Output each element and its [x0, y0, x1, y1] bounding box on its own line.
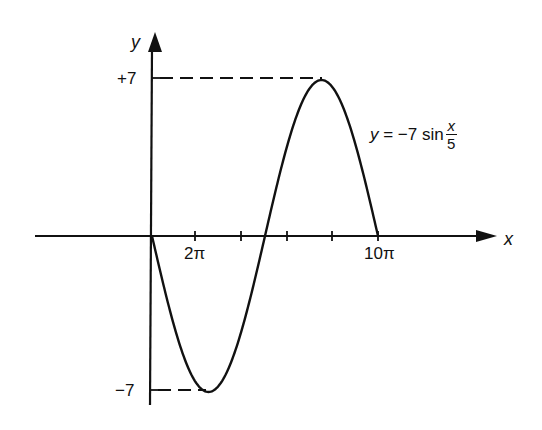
fraction-denominator: 5 [447, 136, 455, 151]
equation-fraction: x 5 [446, 118, 457, 151]
x-axis-label: x [504, 230, 513, 248]
plot-area [0, 0, 542, 430]
equation-rhs: = −7 sin [379, 126, 444, 143]
y-axis-label: y [131, 33, 140, 51]
y-tick-label-pos7: +7 [117, 70, 136, 87]
y-tick-label-neg7: −7 [115, 382, 134, 399]
fraction-numerator: x [447, 118, 455, 133]
chart: y x +7 −7 2π 10π y = −7 sin x 5 [0, 0, 542, 430]
y-axis-arrow-icon [148, 32, 162, 52]
y-axis [150, 48, 152, 405]
equation-lhs: y [370, 126, 379, 143]
x-tick-label-2pi: 2π [184, 245, 205, 262]
x-axis-arrow-icon [476, 230, 497, 242]
equation-label: y = −7 sin x 5 [370, 118, 457, 151]
x-tick-label-10pi: 10π [364, 245, 395, 262]
